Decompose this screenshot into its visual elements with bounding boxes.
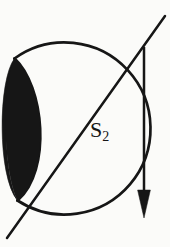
surface-label-s2: S2 [90,119,109,144]
geometric-figure-canvas: a S2 [0,0,170,247]
region-label-a: a [11,120,22,141]
figure-drawing [0,0,170,247]
surface-label-subscript: 2 [102,129,109,144]
surface-label-base: S [90,117,102,142]
